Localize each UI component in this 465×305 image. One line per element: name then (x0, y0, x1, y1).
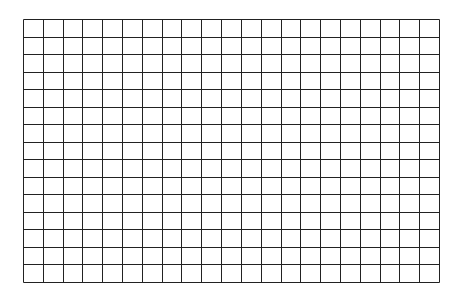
blank-grid (23, 19, 441, 284)
